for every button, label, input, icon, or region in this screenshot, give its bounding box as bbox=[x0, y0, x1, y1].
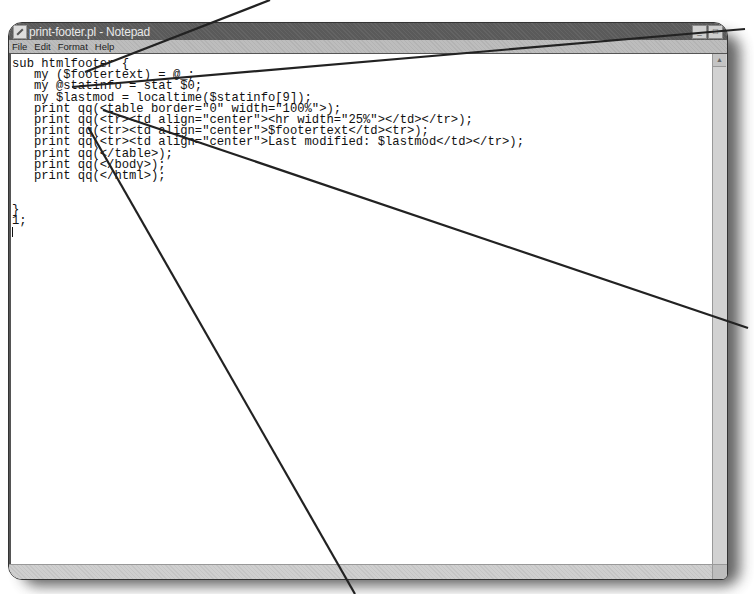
text-caret bbox=[12, 227, 13, 237]
vertical-scrollbar[interactable]: ▲ bbox=[712, 54, 727, 565]
code-content[interactable]: sub htmlfooter { my ($footertext) = @_; … bbox=[11, 54, 713, 239]
code-line: print qq(</html>); bbox=[12, 169, 166, 183]
window-title: print-footer.pl - Notepad bbox=[29, 25, 150, 39]
resize-grip[interactable] bbox=[712, 564, 727, 579]
text-editor[interactable]: sub htmlfooter { my ($footertext) = @_; … bbox=[9, 54, 713, 565]
minimize-button[interactable]: _ bbox=[692, 25, 707, 39]
horizontal-scrollbar[interactable] bbox=[9, 564, 713, 579]
notepad-window: print-footer.pl - Notepad _ □ File Edit … bbox=[8, 22, 728, 580]
menu-file[interactable]: File bbox=[9, 41, 31, 52]
code-line: 1; bbox=[12, 214, 27, 228]
maximize-button[interactable]: □ bbox=[708, 25, 723, 39]
title-bar[interactable]: print-footer.pl - Notepad _ □ bbox=[9, 23, 727, 40]
notepad-icon bbox=[13, 25, 27, 39]
window-controls: _ □ bbox=[692, 25, 723, 39]
menu-help[interactable]: Help bbox=[92, 41, 119, 52]
menu-bar: File Edit Format Help bbox=[9, 40, 727, 54]
menu-format[interactable]: Format bbox=[55, 41, 92, 52]
scroll-up-arrow-icon[interactable]: ▲ bbox=[713, 54, 726, 67]
menu-edit[interactable]: Edit bbox=[31, 41, 54, 52]
